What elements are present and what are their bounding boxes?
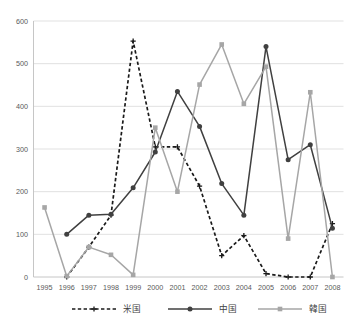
legend-label: 韓国 xyxy=(309,304,327,314)
x-axis-tick-label: 2005 xyxy=(258,283,274,292)
gridlines xyxy=(34,21,344,277)
data-point-marker xyxy=(308,142,313,147)
x-axis-tick-label: 1997 xyxy=(81,283,97,292)
data-point-marker xyxy=(197,124,202,129)
data-point-marker xyxy=(131,185,136,190)
data-point-marker xyxy=(241,213,246,218)
series-韓国 xyxy=(42,42,334,279)
legend-item-米国[interactable]: 米国 xyxy=(72,303,141,314)
x-axis-tick-label: 2002 xyxy=(192,283,208,292)
y-axis-tick-label: 200 xyxy=(16,187,28,196)
line-chart: 0100200300400500600 19951996199719981999… xyxy=(0,0,352,324)
x-axis-tick-label: 1999 xyxy=(125,283,141,292)
x-axis-tick-labels: 1995199619971998199920002001200220032004… xyxy=(37,283,341,292)
data-point-marker xyxy=(197,82,202,87)
data-point-marker xyxy=(308,274,313,279)
x-axis-tick-label: 2007 xyxy=(302,283,318,292)
data-point-marker xyxy=(219,253,224,258)
data-series-layer xyxy=(42,38,335,279)
x-axis-tick-label: 2000 xyxy=(147,283,163,292)
legend-item-韓国[interactable]: 韓国 xyxy=(258,304,327,314)
data-point-marker xyxy=(64,232,69,237)
x-axis-tick-label: 2003 xyxy=(214,283,230,292)
data-point-marker xyxy=(153,149,158,154)
y-axis-tick-label: 300 xyxy=(16,145,28,154)
x-axis-tick-label: 1998 xyxy=(103,283,119,292)
legend-item-中国[interactable]: 中国 xyxy=(168,303,237,314)
legend-label: 米国 xyxy=(123,303,141,314)
x-axis-tick-label: 2008 xyxy=(324,283,340,292)
data-point-marker xyxy=(109,253,114,258)
y-axis-tick-label: 400 xyxy=(16,102,28,111)
data-point-marker xyxy=(219,181,224,186)
series-line xyxy=(67,41,333,277)
data-point-marker xyxy=(131,273,136,278)
y-axis-tick-label: 600 xyxy=(16,17,28,26)
series-米国 xyxy=(64,38,335,279)
data-point-marker xyxy=(278,307,283,312)
series-中国 xyxy=(64,44,335,237)
chart-legend: 米国中国韓国 xyxy=(72,303,327,314)
data-point-marker xyxy=(242,101,247,106)
data-point-marker xyxy=(188,307,193,312)
chart-canvas: 0100200300400500600 19951996199719981999… xyxy=(0,0,352,324)
data-point-marker xyxy=(286,236,291,241)
data-point-marker xyxy=(42,205,47,210)
data-point-marker xyxy=(109,212,114,217)
data-point-marker xyxy=(175,189,180,194)
data-point-marker xyxy=(131,38,136,43)
y-axis-tick-label: 0 xyxy=(24,273,28,282)
y-axis-tick-labels: 0100200300400500600 xyxy=(16,17,28,282)
y-axis-tick-label: 100 xyxy=(16,230,28,239)
data-point-marker xyxy=(330,275,335,280)
x-axis-tick-label: 2006 xyxy=(280,283,296,292)
data-point-marker xyxy=(264,64,269,69)
legend-label: 中国 xyxy=(219,303,237,314)
y-axis-tick-label: 500 xyxy=(16,59,28,68)
data-point-marker xyxy=(87,245,92,250)
x-axis-tick-label: 1995 xyxy=(37,283,53,292)
data-point-marker xyxy=(286,274,291,279)
data-point-marker xyxy=(308,90,313,95)
data-point-marker xyxy=(286,157,291,162)
data-point-marker xyxy=(219,42,224,47)
x-axis-tick-label: 2004 xyxy=(236,283,252,292)
x-axis-tick-label: 2001 xyxy=(169,283,185,292)
data-point-marker xyxy=(241,233,246,238)
data-point-marker xyxy=(330,226,335,231)
data-point-marker xyxy=(175,89,180,94)
data-point-marker xyxy=(264,44,269,49)
data-point-marker xyxy=(86,213,91,218)
data-point-marker xyxy=(153,125,158,130)
data-point-marker xyxy=(64,274,69,279)
x-axis-tick-label: 1996 xyxy=(59,283,75,292)
data-point-marker xyxy=(91,306,96,311)
